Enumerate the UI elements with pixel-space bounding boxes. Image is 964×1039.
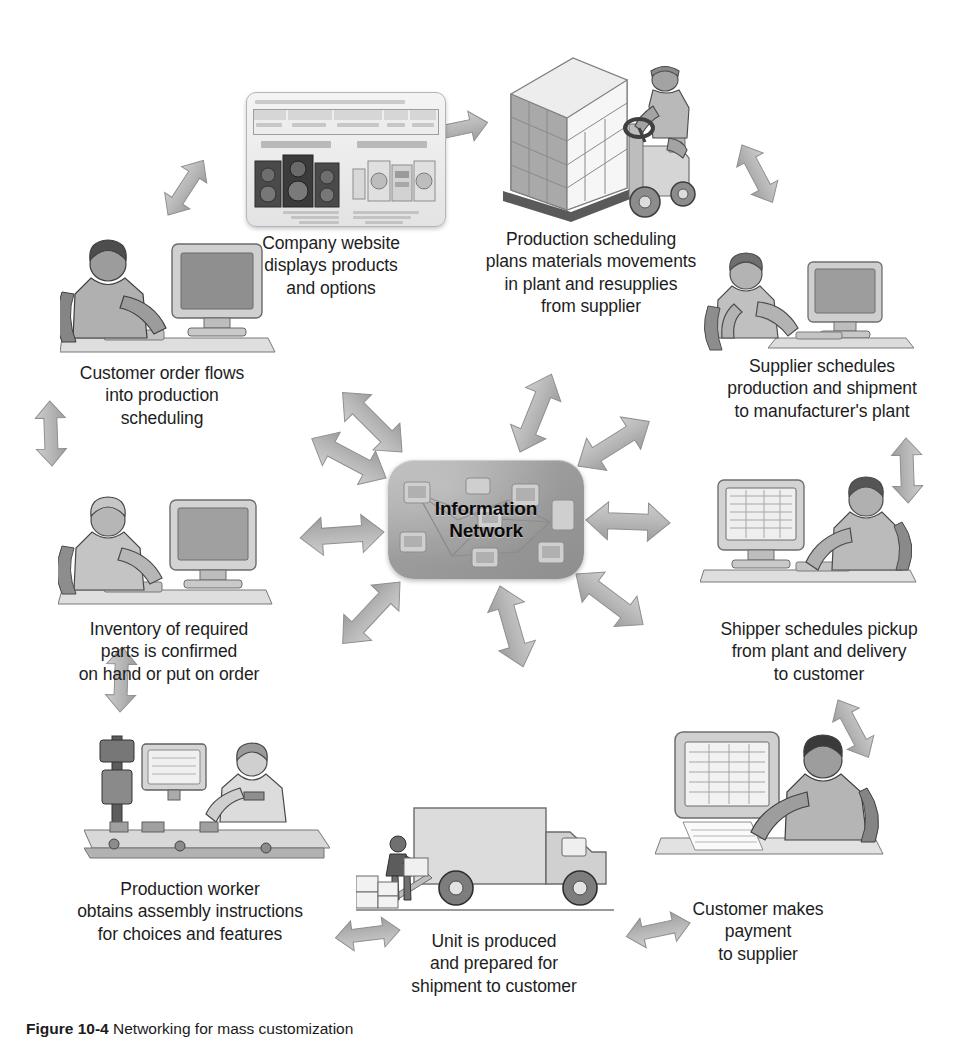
person-at-keyboard-and-monitor[interactable] xyxy=(58,490,274,620)
label-shipper-schedules: Shipper schedules pickup from plant and … xyxy=(676,618,962,685)
label-supplier-schedules: Supplier schedules production and shipme… xyxy=(686,355,958,422)
figure-caption-text: Networking for mass customization xyxy=(113,1020,353,1037)
information-network-hub[interactable]: Information Network xyxy=(388,460,584,579)
arrow-order-to-website xyxy=(155,152,216,223)
website-product-page-thumbnail[interactable] xyxy=(246,92,446,227)
hub-title: Information Network xyxy=(388,497,584,542)
label-inventory-check: Inventory of required parts is confirmed… xyxy=(24,618,314,685)
figure-canvas: Information Network xyxy=(0,0,964,1039)
arrow-inventory-check xyxy=(299,513,385,557)
arrow-production-scheduling xyxy=(502,367,569,459)
figure-caption: Figure 10-4 Networking for mass customiz… xyxy=(26,1020,353,1038)
person-at-desktop-computer[interactable] xyxy=(60,236,276,362)
forklift-with-palletized-boxes[interactable] xyxy=(493,28,709,223)
person-typing-at-monitor[interactable] xyxy=(700,466,920,606)
stereo-system-image xyxy=(351,155,437,207)
seated-person-at-desktop-computer[interactable] xyxy=(700,250,916,360)
label-production-worker: Production worker obtains assembly instr… xyxy=(38,878,342,945)
label-customer-order: Customer order flows into production sch… xyxy=(26,362,298,429)
arrow-unit-produced xyxy=(482,581,542,672)
label-customer-payment: Customer makes payment to supplier xyxy=(640,898,876,965)
arrow-scheduling-to-supplier xyxy=(729,138,786,209)
speaker-system-image xyxy=(251,153,343,211)
person-at-monitor-with-documents[interactable] xyxy=(655,726,885,886)
label-production-scheduling: Production scheduling plans materials mo… xyxy=(452,228,730,318)
delivery-truck-being-loaded[interactable] xyxy=(356,802,616,918)
label-unit-produced: Unit is produced and prepared for shipme… xyxy=(382,930,606,997)
arrow-production-worker xyxy=(329,569,414,656)
worker-at-assembly-line-terminal[interactable] xyxy=(84,730,330,866)
figure-number: Figure 10-4 xyxy=(26,1020,109,1037)
arrow-shipper-schedules xyxy=(585,501,670,542)
